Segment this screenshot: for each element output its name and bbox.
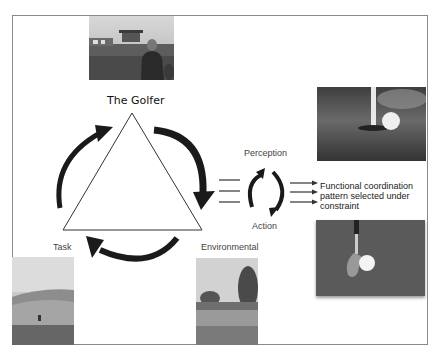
arc-arrow-bottom-icon: [100, 238, 177, 259]
outcome-line-2: pattern selected under: [320, 191, 413, 201]
environmental-label: Environmental: [201, 242, 259, 252]
club-photo: [316, 220, 425, 296]
output-arrows-icon: [290, 181, 318, 205]
perception-label: Perception: [244, 148, 287, 158]
outcome-line-3: constraint: [320, 201, 413, 211]
environmental-photo: [196, 258, 258, 345]
task-label: Task: [53, 242, 72, 252]
hole-photo: [317, 87, 426, 161]
cycle-arrows-icon: [250, 168, 282, 217]
constraints-triangle: [63, 113, 202, 230]
task-photo: [12, 257, 74, 345]
outcome-text: Functional coordination pattern selected…: [320, 181, 413, 211]
action-label: Action: [252, 221, 277, 231]
outcome-line-1: Functional coordination: [320, 181, 413, 191]
